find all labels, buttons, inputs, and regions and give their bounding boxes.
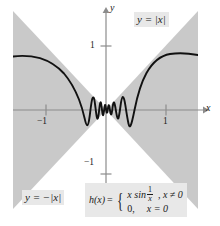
y-axis-label: y [110, 3, 114, 13]
tick-label-x-1: 1 [163, 117, 168, 127]
tick-label-y-1: 1 [90, 41, 95, 51]
squeeze-theorem-figure: y x 1 −1 1 −1 y = |x| y = −|x| h(x) = { … [0, 0, 220, 226]
annotation-upper-envelope: y = |x| [134, 12, 169, 27]
formula-cases: x sin 1 x , x ≠ 0 0, x = 0 [127, 186, 183, 214]
formula-case2-expr: 0, [127, 204, 135, 214]
tick-label-y-neg1: −1 [84, 158, 94, 168]
formula-function-name: h(x) [89, 195, 105, 205]
y-axis-arrow [103, 7, 110, 13]
plot-area [0, 0, 220, 212]
tick-label-x-neg1: −1 [37, 117, 47, 127]
formula-fraction-numerator: 1 [147, 186, 153, 194]
formula-brace: { [117, 191, 123, 209]
annotation-lower-envelope: y = −|x| [22, 190, 64, 205]
formula-fraction-one-over-x: 1 x [147, 186, 153, 203]
formula-equals: = [107, 195, 113, 205]
x-axis-label: x [206, 103, 210, 113]
formula-case2-condition: x = 0 [147, 204, 168, 214]
formula-fraction-denominator: x [147, 194, 153, 203]
formula-case1-condition: , x ≠ 0 [158, 190, 183, 200]
annotation-formula: h(x) = { x sin 1 x , x ≠ 0 0, x = 0 [85, 183, 187, 217]
formula-case1-expr: x sin [127, 190, 146, 200]
formula-case-row-2: 0, x = 0 [127, 204, 183, 214]
plot-svg [0, 0, 220, 212]
formula-case-row-1: x sin 1 x , x ≠ 0 [127, 186, 183, 203]
